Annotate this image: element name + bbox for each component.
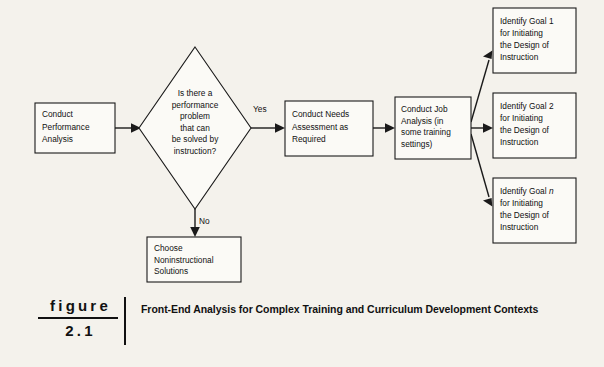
node-line: for Initiating: [500, 113, 543, 123]
node-line: Conduct: [42, 109, 74, 119]
edge-job-to-goal2: [471, 123, 493, 133]
caption-vertical-divider: [124, 297, 126, 345]
figure-number-block: figure 2.1: [38, 296, 120, 341]
node-line: Is there a: [178, 88, 213, 98]
node-line: Conduct Job: [401, 104, 448, 114]
node-line: Required: [292, 134, 326, 144]
node-line: some training: [401, 127, 451, 137]
node-line: Identify Goal 1: [500, 16, 554, 26]
node-line: Identify Goal 2: [500, 101, 554, 111]
node-identify-goal-1[interactable]: Identify Goal 1 for Initiating the Desig…: [493, 8, 576, 73]
figure-page: Conduct Performance Analysis Is there a …: [0, 0, 604, 367]
node-decision-performance-problem[interactable]: Is there a performance problem that can …: [139, 47, 251, 209]
node-conduct-needs-assessment[interactable]: Conduct Needs Assessment as Required: [285, 101, 373, 156]
node-identify-goal-2[interactable]: Identify Goal 2 for Initiating the Desig…: [493, 93, 576, 158]
figure-word-label: figure: [38, 296, 120, 316]
node-line: Solutions: [154, 266, 188, 276]
figure-caption: figure 2.1 Front-End Analysis for Comple…: [38, 296, 578, 356]
node-line: Analysis: [42, 134, 73, 144]
node-line: Instruction: [500, 222, 539, 232]
node-line: Assessment as: [292, 122, 348, 132]
node-line: instruction?: [174, 146, 217, 156]
edge-job-to-goaln: [471, 134, 492, 207]
node-line: Noninstructional: [154, 255, 214, 265]
node-line: the Design of: [500, 125, 550, 135]
node-line: for Initiating: [500, 198, 543, 208]
node-conduct-job-analysis[interactable]: Conduct Job Analysis (in some training s…: [395, 97, 471, 159]
edge-decision-yes: [251, 123, 285, 133]
node-line: Conduct Needs: [292, 109, 349, 119]
node-line: problem: [180, 111, 210, 121]
edge-analysis-to-decision: [115, 123, 141, 133]
node-line: Analysis (in: [401, 116, 444, 126]
node-line: settings): [401, 139, 433, 149]
figure-title: Front-End Analysis for Complex Training …: [141, 302, 571, 317]
node-line: Instruction: [500, 52, 539, 62]
node-line: Performance: [42, 122, 90, 132]
node-conduct-performance-analysis[interactable]: Conduct Performance Analysis: [35, 103, 115, 153]
node-choose-noninstructional-solutions[interactable]: Choose Noninstructional Solutions: [147, 237, 241, 282]
edge-label-no: No: [199, 216, 210, 226]
node-line: that can: [180, 123, 210, 133]
node-line: Choose: [154, 243, 183, 253]
figure-number-label: 2.1: [38, 320, 120, 341]
node-line: for Initiating: [500, 28, 543, 38]
node-line: the Design of: [500, 210, 550, 220]
node-line-goal-n: Identify Goal n: [500, 186, 554, 196]
node-line: be solved by: [172, 134, 219, 144]
edge-needs-to-job: [373, 123, 395, 133]
edge-label-yes: Yes: [253, 104, 267, 114]
node-line: performance: [172, 100, 219, 110]
node-identify-goal-n[interactable]: Identify Goal n for Initiating the Desig…: [493, 178, 576, 243]
edge-job-to-goal1: [471, 51, 492, 123]
node-line: the Design of: [500, 40, 550, 50]
node-line: Instruction: [500, 137, 539, 147]
figure-rule-divider: [38, 317, 118, 319]
